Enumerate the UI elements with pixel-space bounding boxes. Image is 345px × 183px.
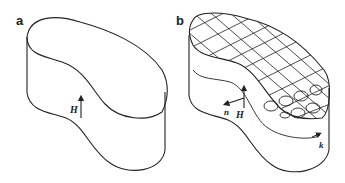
sample-a-top-surface — [27, 18, 167, 118]
current-line — [193, 70, 320, 138]
field-symbol-b: H — [235, 109, 245, 120]
normal-symbol: n — [224, 107, 229, 117]
field-symbol-a: H — [69, 104, 79, 115]
field-arrow-b: H — [235, 88, 245, 120]
sample-b-bottom-contour — [189, 96, 329, 172]
panel-a-sample — [27, 18, 167, 171]
current-symbol: k — [319, 140, 324, 150]
field-arrow-a: H — [69, 98, 81, 118]
diagram-canvas: H H n — [0, 0, 345, 183]
sample-a-bottom-contour — [27, 93, 165, 170]
